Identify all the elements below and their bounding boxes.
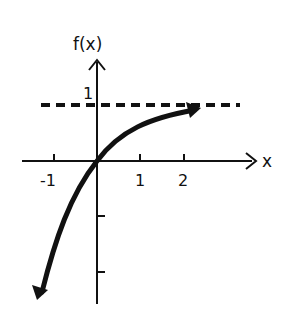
asymptote-label: 1 (83, 84, 93, 103)
x-tick-label-neg1: -1 (40, 171, 56, 190)
x-tick-label-2: 2 (178, 171, 188, 190)
function-curve (42, 110, 194, 292)
x-axis-label: x (262, 151, 272, 171)
function-graph: f(x) x -1 1 2 1 (0, 0, 292, 314)
y-axis-label: f(x) (73, 34, 102, 54)
x-tick-label-1: 1 (135, 171, 145, 190)
